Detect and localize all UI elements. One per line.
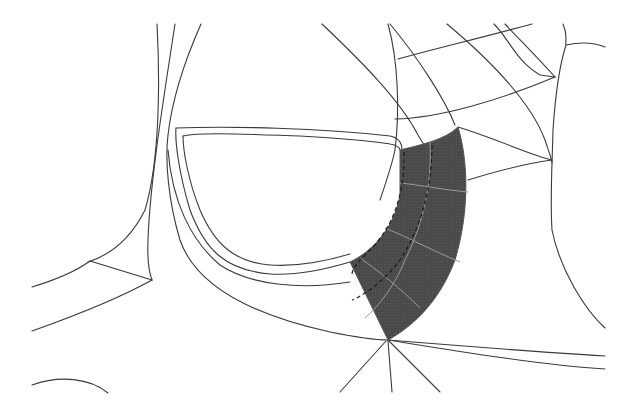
window-outer-loop [176,128,350,274]
curve-left-strand-2 [148,24,175,280]
window-inner-top [183,134,400,150]
band-loop-3 [168,150,350,286]
curve-diagonal-d [447,24,552,163]
curve-right-vertical [551,24,605,328]
curve-diagonal-f [505,24,555,77]
curve-bottom-long-2 [388,340,605,369]
curve-diagonal-c [390,24,455,125]
curve-bottom-long-1 [388,340,605,356]
curve-bottom-left-arc [32,379,108,393]
curve-diagonal-b [380,24,398,200]
curve-fan-left [340,341,386,392]
window-inner-loop [183,136,350,265]
highlighted-surface-patch[interactable] [350,127,468,340]
curve-cross-4 [468,160,552,180]
curve-fan-right [389,341,440,392]
curve-network [0,0,639,414]
curve-fan-center [388,341,392,392]
curve-left-strand-3 [167,24,388,340]
curve-right-spur [566,43,605,47]
curve-left-branch-1 [32,261,152,287]
curve-cross-3 [458,127,552,160]
window-outer-top [176,127,402,150]
diagram-canvas [0,0,639,414]
curve-cross-1 [398,24,532,59]
curve-left-strand-1 [88,24,159,262]
curve-left-branch-2 [32,280,152,331]
